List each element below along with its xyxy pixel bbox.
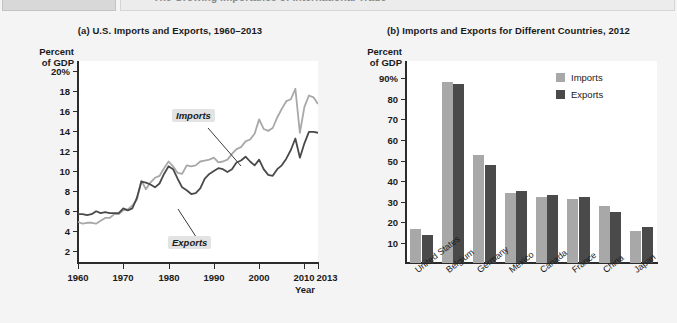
series-line-exports bbox=[78, 132, 318, 215]
category-label-china: China bbox=[601, 253, 626, 275]
category-label-france: France bbox=[570, 250, 598, 275]
panel-a-x-tick bbox=[304, 264, 305, 269]
panel-a-x-tick bbox=[123, 264, 124, 269]
panel-a-y-label: 18 bbox=[28, 86, 70, 97]
panel-a-x-tick bbox=[259, 264, 260, 269]
category-label-japan: Japan bbox=[632, 252, 657, 275]
panel-a-y-label: 8 bbox=[28, 186, 70, 197]
figure-title-box: The Growing Importance of International … bbox=[120, 0, 675, 11]
panel-a-x-tick bbox=[214, 264, 215, 269]
panel-a-y-label: 16 bbox=[28, 106, 70, 117]
panel-a-y-axis-title: Percent of GDP bbox=[12, 46, 74, 68]
panel-a-y-label: 6 bbox=[28, 206, 70, 217]
panel-a-y-label: 12 bbox=[28, 146, 70, 157]
figure-banner: FIGURE 8-1 The Growing Importance of Int… bbox=[0, 0, 677, 11]
panel-a-y-label: 14 bbox=[28, 126, 70, 137]
panel-a-x-axis-title: Year bbox=[280, 284, 330, 295]
panel-a-y-label: 4 bbox=[28, 226, 70, 237]
figure-number-box: FIGURE 8-1 bbox=[2, 0, 116, 11]
panel-a-line-chart: (a) U.S. Imports and Exports, 1960–2013 … bbox=[0, 14, 340, 323]
panel-a-y-label: 20% bbox=[28, 66, 70, 77]
panel-a-x-tick bbox=[169, 264, 170, 269]
panel-a-x-axis-line bbox=[77, 262, 319, 264]
figure-title: The Growing Importance of International … bbox=[153, 0, 386, 3]
panel-a-x-label: 1970 bbox=[101, 272, 145, 283]
panel-b-bar-chart: (b) Imports and Exports for Different Co… bbox=[340, 14, 677, 323]
panel-a-series-lines bbox=[78, 61, 318, 262]
category-label-germany: Germany bbox=[475, 244, 510, 275]
panel-a-x-label: 1990 bbox=[192, 272, 236, 283]
panel-a-x-label: 1960 bbox=[56, 272, 100, 283]
category-label-canada: Canada bbox=[538, 248, 569, 275]
panel-b-category-labels: United StatesBelgiumGermanyMexicoCanadaF… bbox=[340, 14, 677, 323]
panel-a-x-tick bbox=[78, 264, 79, 269]
panel-a-y-label: 2 bbox=[28, 246, 70, 257]
figure-number: FIGURE 8-1 bbox=[13, 0, 73, 2]
panel-a-imports-annotation: Imports bbox=[172, 109, 215, 122]
panel-a-x-label: 1980 bbox=[147, 272, 191, 283]
panel-a-y-label: 10 bbox=[28, 166, 70, 177]
figure-page: FIGURE 8-1 The Growing Importance of Int… bbox=[0, 0, 677, 323]
panel-a-title: (a) U.S. Imports and Exports, 1960–2013 bbox=[0, 25, 340, 36]
category-label-mexico: Mexico bbox=[507, 249, 536, 274]
panel-a-exports-annotation: Exports bbox=[168, 236, 211, 249]
panel-a-x-tick bbox=[318, 264, 319, 269]
panel-a-x-label: 2000 bbox=[237, 272, 281, 283]
